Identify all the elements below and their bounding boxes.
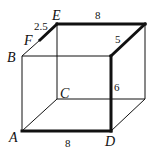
- vertex-label-F: F: [23, 33, 33, 48]
- edge-label-depth: 5: [115, 33, 121, 45]
- vertex-label-C: C: [60, 86, 70, 101]
- vertex-label-A: A: [8, 130, 18, 145]
- vertex-label-B: B: [7, 50, 16, 65]
- edge-label-bottom: 8: [65, 137, 71, 149]
- edge-label-FE: 2.5: [34, 20, 48, 32]
- edge-label-height: 6: [114, 81, 120, 93]
- edge-label-top: 8: [95, 9, 101, 21]
- vertex-label-D: D: [104, 134, 115, 149]
- edge-DI: [111, 99, 145, 131]
- prism-diagram: E F B C A D 2.5 8 5 6 8: [0, 0, 154, 153]
- vertex-label-E: E: [51, 8, 61, 23]
- edge-AC: [22, 99, 57, 131]
